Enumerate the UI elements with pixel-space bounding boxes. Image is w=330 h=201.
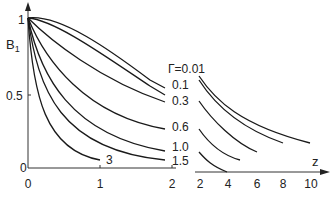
curve-gamma-0.01-left (28, 18, 165, 88)
curve-gamma-1.5-left (28, 18, 165, 160)
x-tick-label-2: 2 (169, 177, 176, 191)
right-axes (195, 169, 330, 175)
curve-label-0.1: 0.1 (172, 78, 189, 92)
curve-gamma-0.1-right (199, 80, 283, 143)
curve-gamma-0.01-right (199, 76, 310, 143)
curve-gamma-0.6-left (28, 18, 165, 129)
y-axis-label: B1 (6, 37, 20, 54)
y-tick-label-0: 0 (20, 161, 27, 175)
y-tick-label-1: 1 (18, 13, 25, 27)
rx-tick-label-6: 6 (254, 177, 261, 191)
chart: B1 1 0.5 0 0 1 2 2 4 6 8 10 z Γ=0.01 0.1… (0, 0, 330, 201)
curve-label-3: 3 (106, 153, 113, 167)
x-tick-label-0: 0 (25, 177, 32, 191)
x-tick-label-1: 1 (97, 177, 104, 191)
y-axis-arrow-icon (25, 2, 31, 11)
curve-gamma-0.3-left (28, 18, 165, 102)
rx-tick-label-2: 2 (197, 177, 204, 191)
rx-tick-label-4: 4 (225, 177, 232, 191)
curve-label-0.6: 0.6 (172, 120, 189, 134)
curve-label-1.5: 1.5 (172, 154, 189, 168)
curve-label-0.01: Γ=0.01 (168, 62, 205, 76)
rx-tick-label-8: 8 (280, 177, 287, 191)
rx-tick-label-10: 10 (304, 177, 318, 191)
curve-label-0.3: 0.3 (172, 94, 189, 108)
curve-gamma-1.0-left (28, 18, 165, 151)
right-curves (199, 76, 310, 172)
x-axis-arrow-icon (320, 169, 330, 175)
left-curves (28, 18, 165, 160)
x-axis-label: z (312, 154, 319, 169)
curve-label-1.0: 1.0 (172, 140, 189, 154)
curve-gamma-1.5-right (199, 152, 227, 172)
curve-gamma-0.6-right (199, 129, 240, 160)
y-tick-label-05: 0.5 (6, 89, 23, 103)
